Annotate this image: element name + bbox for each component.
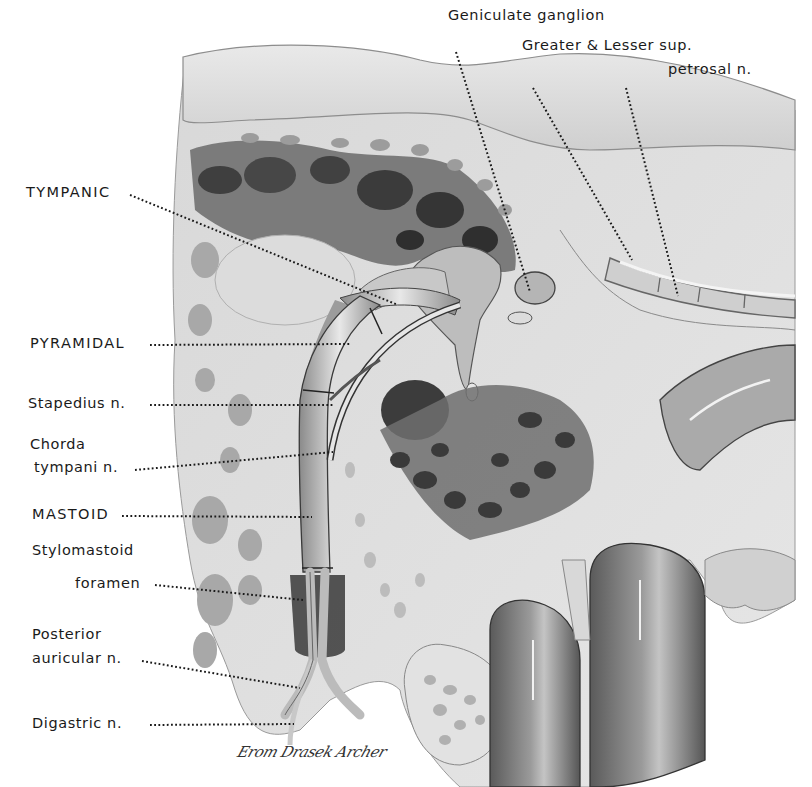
label-chorda-tympani-line2: tympani n.	[34, 457, 118, 477]
label-tympanic: TYMPANIC	[26, 182, 110, 202]
facial-nerve-figure: Geniculate ganglion Greater & Lesser sup…	[0, 0, 812, 787]
label-mastoid: MASTOID	[32, 504, 109, 524]
label-posterior-auricular-line2: auricular n.	[32, 648, 122, 668]
label-digastric-n: Digastric n.	[32, 713, 122, 733]
artist-signature: Erom Drasek Archer	[235, 743, 389, 761]
label-stylomastoid-line2: foramen	[75, 573, 140, 593]
label-posterior-auricular-line1: Posterior	[32, 624, 101, 644]
label-pyramidal: PYRAMIDAL	[30, 333, 125, 353]
label-petrosal-n: petrosal n.	[668, 59, 752, 79]
temporal-bone	[173, 45, 795, 787]
label-chorda-tympani-line1: Chorda	[30, 434, 86, 454]
label-stapedius-n: Stapedius n.	[28, 393, 126, 413]
label-geniculate-ganglion: Geniculate ganglion	[448, 5, 605, 25]
label-greater-lesser-line1: Greater & Lesser sup.	[522, 37, 692, 53]
label-greater-lesser-petrosal: Greater & Lesser sup.	[522, 35, 692, 55]
label-stylomastoid-line1: Stylomastoid	[32, 540, 134, 560]
